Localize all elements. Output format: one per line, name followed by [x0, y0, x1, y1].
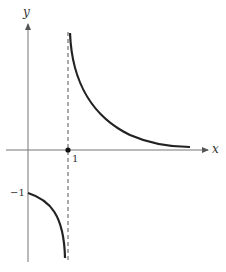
y-axis-label: y: [22, 5, 30, 19]
x-axis-label: x: [212, 142, 219, 156]
plot-canvas: y x 1 −1: [0, 0, 226, 272]
point-marker: [65, 147, 70, 152]
curve-right-branch: [70, 33, 190, 147]
tick-label-x-1: 1: [72, 153, 78, 164]
tick-label-y-minus-1: −1: [10, 187, 25, 198]
curve-left-branch: [28, 193, 65, 258]
graph-figure: y x 1 −1: [0, 0, 226, 272]
